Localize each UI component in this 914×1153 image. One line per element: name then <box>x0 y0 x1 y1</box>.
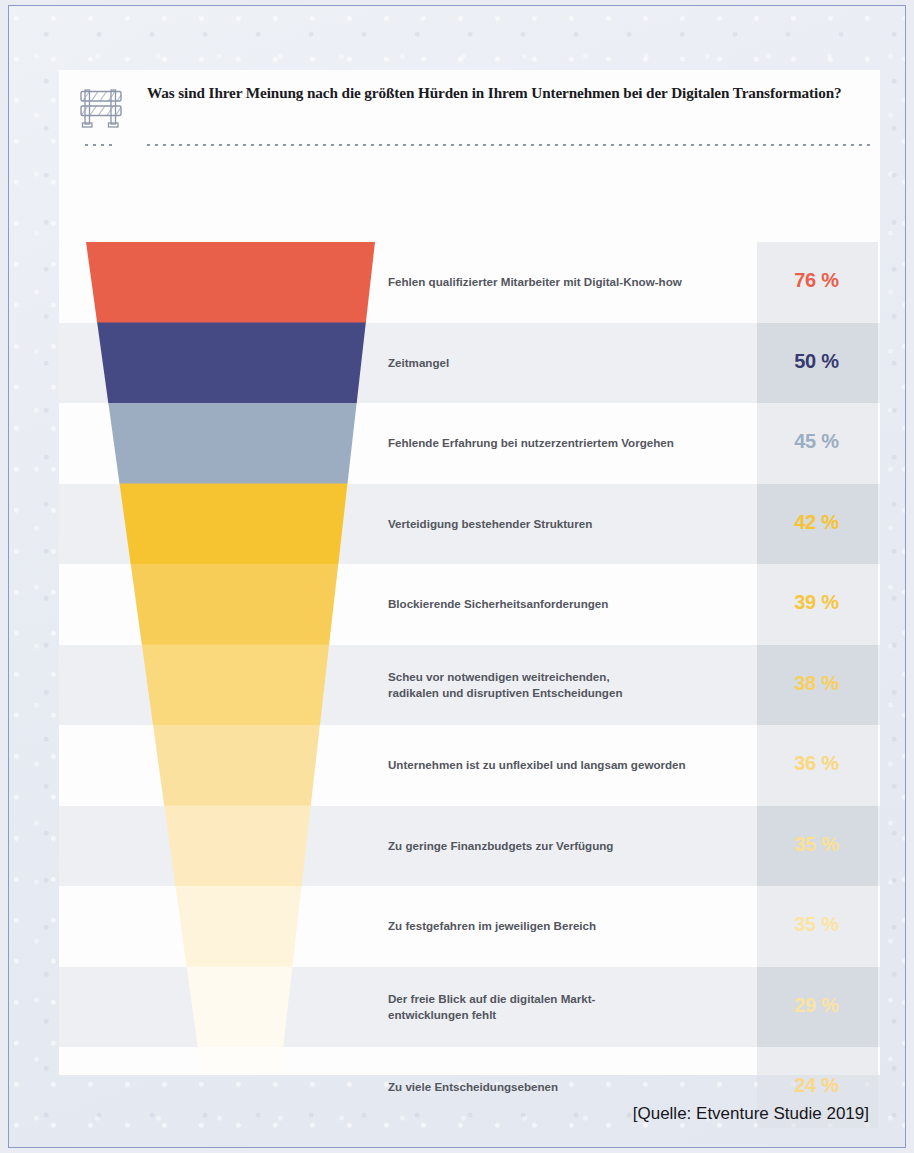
funnel-row-value: 24 % <box>759 1074 874 1097</box>
row-label-line: Zu geringe Finanzbudgets zur Verfügung <box>388 839 613 852</box>
row-label-line: Zu viele Entscheidungsebenen <box>388 1080 558 1093</box>
funnel-row-value: 35 % <box>759 913 874 936</box>
row-label-line: radikalen und disruptiven Entscheidungen <box>388 686 623 699</box>
funnel-row-label: Blockierende Sicherheitsanforderungen <box>388 596 748 612</box>
row-label-line: Zeitmangel <box>388 356 449 369</box>
funnel-segment <box>153 725 320 806</box>
row-label-line: Unternehmen ist zu unflexibel und langsa… <box>388 758 686 771</box>
funnel-row-label: Zu geringe Finanzbudgets zur Verfügung <box>388 838 748 854</box>
chart-card: Was sind Ihrer Meinung nach die größten … <box>59 70 880 1075</box>
funnel-row-value: 36 % <box>759 752 874 775</box>
funnel-segment <box>175 886 301 967</box>
row-label-line: Fehlen qualifizierter Mitarbeiter mit Di… <box>388 275 682 288</box>
title-divider <box>147 144 874 146</box>
chart-header: Was sind Ihrer Meinung nach die größten … <box>59 70 880 150</box>
funnel-row-label: Zeitmangel <box>388 355 748 371</box>
funnel-row-value: 29 % <box>759 994 874 1017</box>
funnel-row-value: 45 % <box>759 430 874 453</box>
funnel-row-label: Unternehmen ist zu unflexibel und langsa… <box>388 757 748 773</box>
row-label-line: Zu festgefahren im jeweiligen Bereich <box>388 919 596 932</box>
funnel-row-label: Scheu vor notwendigen weitreichenden,rad… <box>388 669 748 700</box>
funnel-row-value: 35 % <box>759 833 874 856</box>
source-attribution: [Quelle: Etventure Studie 2019] <box>633 1104 869 1124</box>
funnel-segment <box>164 806 310 887</box>
funnel-segment <box>97 323 366 404</box>
funnel-segment <box>131 564 339 645</box>
funnel-row-label: Verteidigung bestehender Strukturen <box>388 516 748 532</box>
row-label-line: Der freie Blick auf die digitalen Markt- <box>388 992 595 1005</box>
funnel-row-value: 38 % <box>759 672 874 695</box>
funnel-shape <box>59 172 399 1072</box>
funnel-segment <box>142 645 329 726</box>
funnel-row-label: Fehlende Erfahrung bei nutzerzentriertem… <box>388 435 748 451</box>
funnel-segment <box>120 484 348 565</box>
funnel-segment <box>108 403 356 484</box>
title-divider-stub <box>85 144 117 146</box>
funnel-chart: Fehlen qualifizierter Mitarbeiter mit Di… <box>59 172 880 1072</box>
row-label-line: Blockierende Sicherheitsanforderungen <box>388 597 608 610</box>
funnel-row-label: Der freie Blick auf die digitalen Markt-… <box>388 991 748 1022</box>
page-title: Was sind Ihrer Meinung nach die größten … <box>147 83 862 103</box>
funnel-segment <box>187 967 293 1048</box>
funnel-row-value: 39 % <box>759 591 874 614</box>
funnel-segment <box>86 242 375 323</box>
row-label-line: Fehlende Erfahrung bei nutzerzentriertem… <box>388 436 674 449</box>
funnel-row-label: Fehlen qualifizierter Mitarbeiter mit Di… <box>388 274 748 290</box>
construction-barricade-icon <box>77 84 125 132</box>
row-label-line: Scheu vor notwendigen weitreichenden, <box>388 670 610 683</box>
funnel-row-value: 42 % <box>759 511 874 534</box>
row-label-line: entwicklungen fehlt <box>388 1008 496 1021</box>
funnel-row-label: Zu festgefahren im jeweiligen Bereich <box>388 918 748 934</box>
scanned-page-frame: Was sind Ihrer Meinung nach die größten … <box>8 5 906 1148</box>
funnel-row-label: Zu viele Entscheidungsebenen <box>388 1079 748 1095</box>
row-label-line: Verteidigung bestehender Strukturen <box>388 517 592 530</box>
funnel-segment <box>198 1047 283 1072</box>
funnel-row-value: 76 % <box>759 269 874 292</box>
funnel-row-value: 50 % <box>759 350 874 373</box>
